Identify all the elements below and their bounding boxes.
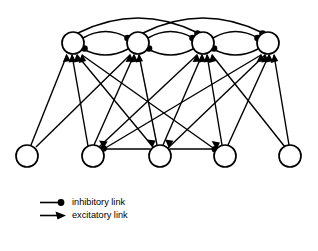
arrowhead-icon [56,211,67,219]
legend-item-inhibitory: inhibitory link [40,197,126,207]
legend-item-excitatory: excitatory link [40,210,128,220]
inhibitory-link-u2-u3-lower [213,49,258,55]
excitatory-link-l4-u3 [274,55,289,145]
node-upper-4[interactable] [257,32,279,54]
inhibitory-link-u1-u2-upper [148,32,193,39]
arrowhead-icon [136,54,143,63]
inhibitory-link-u0-u1-upper [83,32,128,39]
inhibitory-dot-icon [58,199,65,206]
node-upper-3[interactable] [192,32,214,54]
excitatory-link-l0-u0 [31,56,67,145]
excitatory-link-l4-u2 [212,55,285,147]
excitatory-link-l1-u0 [72,55,88,146]
upper-inhibitory-links [78,18,263,55]
node-lower-2[interactable] [82,145,104,167]
legend-inhibitory-label: inhibitory link [72,197,126,207]
node-lower-4[interactable] [214,145,236,167]
arrowhead-icon [271,54,279,63]
upper-layer-nodes [62,32,279,54]
inhibitory-link-u1-u2-lower [148,49,193,55]
node-lower-1[interactable] [16,145,38,167]
node-lower-5[interactable] [279,145,301,167]
legend: inhibitory link excitatory link [40,197,128,220]
node-upper-2[interactable] [127,32,149,54]
inhibitory-link-u2-u3-upper [213,32,258,39]
node-upper-1[interactable] [62,32,84,54]
legend-excitatory-label: excitatory link [72,210,128,220]
excitatory-link-l3-u2 [207,55,222,145]
inhibitory-link-u0-u1-lower [83,49,128,55]
excitatory-link-l2-u1 [139,55,157,145]
excitatory-links [31,55,289,150]
network-diagram: inhibitory link excitatory link [0,0,318,251]
node-lower-3[interactable] [149,145,171,167]
lower-layer-nodes [16,145,301,167]
inhibitory-terminal-dots [81,30,266,152]
